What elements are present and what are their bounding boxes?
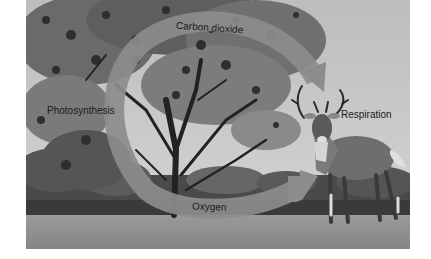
label-respiration: Respiration: [341, 109, 392, 120]
grass: [26, 215, 410, 249]
label-oxygen: Oxygen: [192, 200, 227, 212]
label-photosynthesis: Photosynthesis: [47, 105, 115, 116]
